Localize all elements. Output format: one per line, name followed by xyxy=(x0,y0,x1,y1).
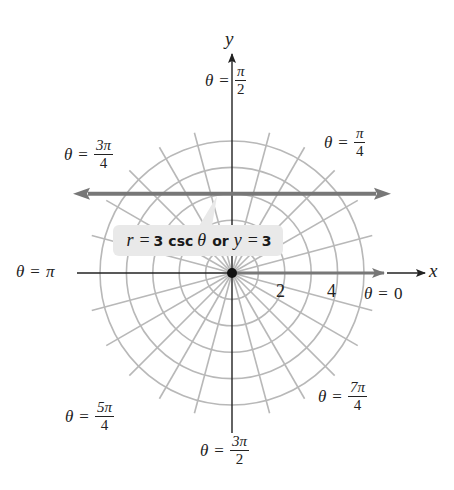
angle-label-pi-over-4: θ= π4 xyxy=(324,126,365,159)
callout-three-2: 3 xyxy=(262,233,272,249)
angle-label-3pi-over-4: θ= 3π4 xyxy=(64,138,113,171)
callout-r: r xyxy=(126,230,133,251)
callout-equals-1: = xyxy=(139,230,149,251)
angle-label-pi-over-2: θ= π2 xyxy=(205,64,246,97)
polar-diagram: y x 2 4 r = 3 csc θ or y = 3 θ= π2 θ= 3π… xyxy=(0,0,454,490)
angle-label-5pi-over-4: θ= 5π4 xyxy=(65,400,114,433)
angle-label-3pi-over-2: θ= 3π2 xyxy=(200,434,249,467)
y-axis-label: y xyxy=(225,28,233,50)
grid-radial-line xyxy=(232,273,358,346)
curve-arrowhead-left xyxy=(73,188,90,200)
grid-radial-line xyxy=(159,273,232,399)
callout-three-1: 3 xyxy=(154,233,164,249)
angle-label-7pi-over-4: θ= 7π4 xyxy=(318,380,367,413)
angle-label-pi: θ= π xyxy=(16,262,54,282)
callout-equals-2: = xyxy=(248,230,258,251)
x-axis-label: x xyxy=(429,260,437,282)
grid-radial-line xyxy=(232,273,305,399)
pole-dot xyxy=(227,268,237,278)
callout-theta: θ xyxy=(197,230,206,251)
callout-or: or xyxy=(212,233,229,249)
tick-label-4: 4 xyxy=(327,281,336,302)
grid-radial-line xyxy=(232,273,372,311)
callout-csc: csc xyxy=(168,233,193,249)
tick-label-2: 2 xyxy=(276,281,285,302)
grid-radial-line xyxy=(194,273,232,413)
angle-label-zero: θ= 0 xyxy=(364,284,402,304)
grid-radial-line xyxy=(92,273,232,311)
grid-radial-line xyxy=(232,273,270,413)
callout-y: y xyxy=(234,230,242,251)
equation-callout: r = 3 csc θ or y = 3 xyxy=(113,225,283,256)
grid-radial-line xyxy=(106,273,232,346)
curve-arrowhead-right xyxy=(374,188,391,200)
